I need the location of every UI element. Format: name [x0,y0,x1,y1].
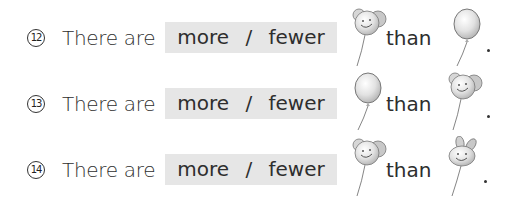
choice-fewer[interactable]: fewer [269,154,325,185]
choice-more[interactable]: more [177,88,229,119]
round-balloon-icon [338,70,388,132]
answer-choice-box[interactable]: more / fewer [165,88,337,119]
question-number: 12 [27,29,45,47]
question-row-12: 12 There are more / fewer than [0,4,513,70]
answer-choice-box[interactable]: more / fewer [165,22,337,53]
question-row-14: 14 There are more / fewer than [0,136,513,202]
connector-text: than [386,26,431,50]
choice-separator: / [245,88,252,119]
question-lead-text: There are [62,26,155,50]
rabbit-balloon-icon [433,136,483,198]
choice-fewer[interactable]: fewer [269,22,325,53]
question-number: 13 [27,95,45,113]
period [487,49,490,52]
bear-balloon-icon [434,70,484,132]
answer-choice-box[interactable]: more / fewer [165,154,337,185]
question-lead-text: There are [62,92,155,116]
question-row-13: 13 There are more / fewer than [0,70,513,136]
question-lead-text: There are [62,158,155,182]
round-balloon-icon [437,6,487,68]
connector-text: than [386,92,431,116]
choice-more[interactable]: more [177,22,229,53]
connector-text: than [386,158,431,182]
bear-balloon-icon [338,136,388,198]
choice-separator: / [245,154,252,185]
choice-fewer[interactable]: fewer [269,88,325,119]
period [484,180,487,183]
question-number: 14 [27,161,45,179]
period [487,115,490,118]
choice-separator: / [245,22,252,53]
bear-balloon-icon [338,6,388,68]
choice-more[interactable]: more [177,154,229,185]
